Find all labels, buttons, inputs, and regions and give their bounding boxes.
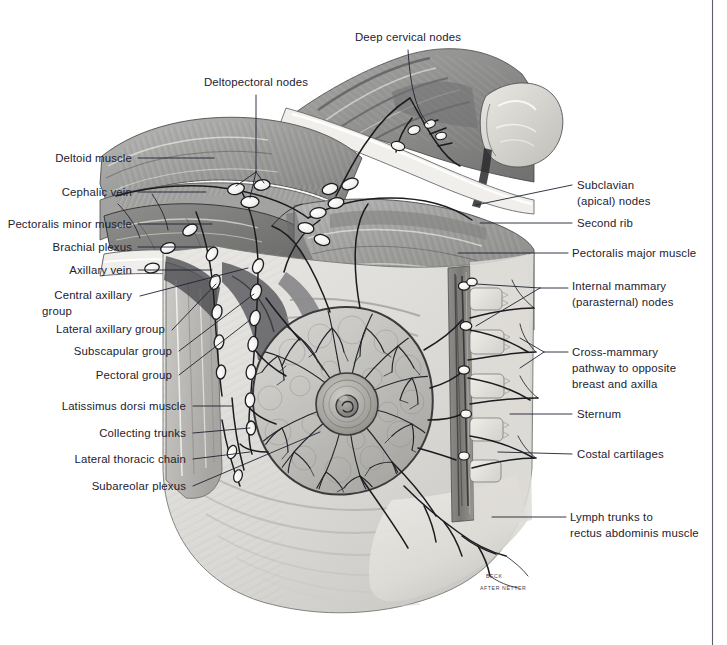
label-pectoralis-minor-muscle: Pectoralis minor muscle bbox=[8, 218, 132, 230]
label-cross-mammary-pathway-line3: breast and axilla bbox=[572, 378, 658, 390]
label-internal-mammary-nodes-line1: Internal mammary bbox=[572, 280, 666, 292]
label-subclavian-apical-nodes-line1: Subclavian bbox=[577, 179, 634, 191]
label-subclavian-apical-nodes-line2: (apical) nodes bbox=[577, 195, 651, 207]
label-cross-mammary-pathway-line2: pathway to opposite bbox=[572, 362, 676, 374]
label-lymph-trunks-line2: rectus abdominis muscle bbox=[570, 527, 699, 539]
signature-line-1: BECK bbox=[486, 573, 503, 579]
label-second-rib: Second rib bbox=[577, 217, 633, 229]
label-costal-cartilages: Costal cartilages bbox=[577, 448, 664, 460]
label-deltopectoral-nodes: Deltopectoral nodes bbox=[204, 76, 308, 88]
label-sternum: Sternum bbox=[577, 408, 621, 420]
sternum-region bbox=[448, 254, 532, 526]
label-cross-mammary-pathway-line1: Cross-mammary bbox=[572, 346, 658, 358]
label-lateral-axillary-group: Lateral axillary group bbox=[56, 323, 165, 335]
label-axillary-vein: Axillary vein bbox=[69, 264, 132, 276]
label-latissimus-dorsi-muscle: Latissimus dorsi muscle bbox=[62, 400, 186, 412]
anatomy-plate: Deep cervical nodes Deltopectoral nodes … bbox=[0, 0, 727, 645]
label-pectoralis-major-muscle: Pectoralis major muscle bbox=[572, 247, 696, 259]
label-central-axillary-group-line2: group bbox=[42, 305, 72, 317]
label-lymph-trunks-line1: Lymph trunks to bbox=[570, 511, 653, 523]
label-collecting-trunks: Collecting trunks bbox=[99, 427, 186, 439]
label-cephalic-vein: Cephalic vein bbox=[62, 186, 132, 198]
label-deep-cervical-nodes: Deep cervical nodes bbox=[355, 31, 461, 43]
label-subareolar-plexus: Subareolar plexus bbox=[92, 480, 187, 492]
label-pectoral-group: Pectoral group bbox=[96, 369, 172, 381]
anatomy-illustration: Deep cervical nodes Deltopectoral nodes … bbox=[0, 0, 727, 645]
label-deltoid-muscle: Deltoid muscle bbox=[55, 152, 132, 164]
label-brachial-plexus: Brachial plexus bbox=[53, 241, 133, 253]
label-subscapular-group: Subscapular group bbox=[74, 345, 172, 357]
nipple-areola-region bbox=[316, 373, 378, 435]
label-central-axillary-group-line1: Central axillary bbox=[54, 289, 132, 301]
label-lateral-thoracic-chain: Lateral thoracic chain bbox=[74, 453, 186, 465]
signature-line-2: AFTER NETTER bbox=[480, 585, 526, 591]
label-internal-mammary-nodes-line2: (parasternal) nodes bbox=[572, 296, 674, 308]
